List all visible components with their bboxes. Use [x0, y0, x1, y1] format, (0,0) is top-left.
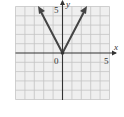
coordinate-plane: 5 y 0 5 x [0, 0, 124, 117]
y-axis-label: y [65, 0, 70, 9]
x-tick-label: 5 [104, 56, 109, 66]
y-tick-label: 5 [54, 5, 59, 15]
origin-label: 0 [54, 56, 59, 66]
x-axis-label: x [113, 42, 118, 52]
vertex-point [61, 51, 65, 55]
